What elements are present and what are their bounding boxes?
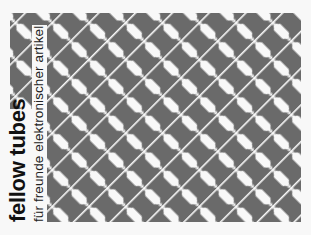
business-card: fellow tubes für freunde elektronischer … (0, 0, 311, 235)
brand-subtitle: für freunde elektronischer artikel (31, 26, 47, 222)
vertical-text-strip: fellow tubes für freunde elektronischer … (0, 0, 50, 235)
hexagon-lattice-icon (10, 13, 301, 222)
brand-title: fellow tubes (5, 98, 31, 222)
geometric-pattern (10, 13, 301, 222)
